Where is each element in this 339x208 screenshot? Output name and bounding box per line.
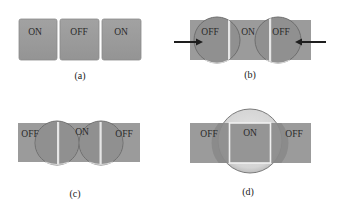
caption-a: (a)	[74, 70, 85, 82]
panel-a: ON OFF ON (a)	[19, 19, 141, 82]
panel-c: OFF ON OFF (c)	[18, 121, 140, 200]
panel-b: OFF ON OFF (b)	[174, 17, 326, 81]
divider-line	[269, 17, 271, 63]
state-label: OFF	[200, 129, 217, 139]
caption-c: (c)	[69, 188, 80, 200]
state-label: OFF	[21, 129, 38, 139]
state-label: OFF	[285, 129, 302, 139]
state-label: ON	[28, 27, 42, 37]
lens-circle-right	[255, 17, 301, 63]
switch-box-1	[19, 19, 57, 60]
state-label: OFF	[115, 129, 132, 139]
divider-line	[100, 122, 102, 165]
divider-line	[57, 122, 59, 165]
state-label: OFF	[272, 27, 289, 37]
diagram-canvas: ON OFF ON (a) OFF ON OFF (b)	[0, 0, 339, 208]
state-label: ON	[114, 27, 128, 37]
state-label: OFF	[70, 27, 87, 37]
switch-box-2	[60, 19, 99, 60]
caption-d: (d)	[242, 186, 254, 198]
divider-line	[228, 17, 230, 63]
lens-circle-left	[194, 17, 240, 63]
state-label: OFF	[201, 27, 218, 37]
caption-b: (b)	[244, 69, 256, 81]
state-label: ON	[75, 127, 89, 137]
state-label: ON	[243, 128, 257, 138]
switch-box-3	[102, 19, 141, 60]
panel-d: OFF ON OFF (d)	[190, 109, 311, 198]
state-label: ON	[241, 27, 255, 37]
